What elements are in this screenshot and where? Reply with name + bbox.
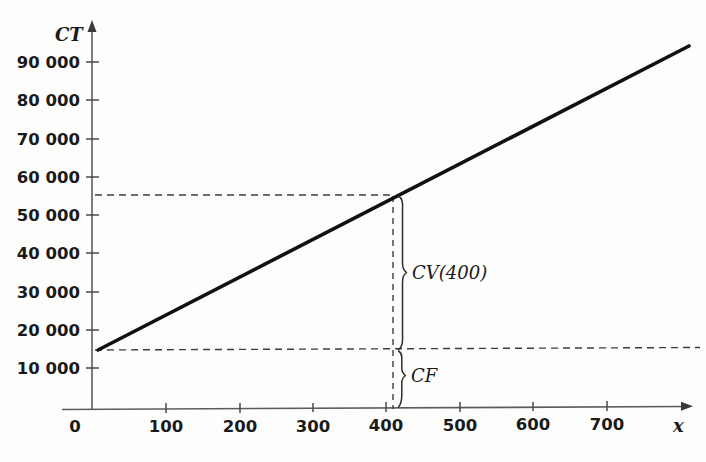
chart-figure: 10 000 20 000 30 000 40 000 50 000 60 00…	[0, 0, 706, 462]
x-tick-label: 300	[296, 417, 330, 436]
y-axis-arrow-icon	[88, 20, 97, 32]
y-tick-label: 80 000	[17, 91, 80, 110]
x-tick-label: 400	[369, 416, 403, 435]
y-tick-label: 50 000	[17, 206, 80, 225]
variable-cost-brace	[399, 196, 407, 350]
x-tick-label: 100	[149, 417, 183, 436]
y-tick-label: 60 000	[17, 168, 80, 187]
fixed-cost-brace	[399, 351, 406, 407]
y-axis-title: CT	[55, 24, 84, 45]
y-tick-label: 90 000	[17, 53, 80, 72]
x-tick-label: 500	[443, 416, 477, 435]
variable-cost-brace-label: CV(400)	[412, 262, 487, 283]
x-tick-label: 600	[516, 415, 550, 434]
y-tick-label: 20 000	[17, 321, 80, 340]
y-tick-label: 40 000	[17, 244, 80, 263]
x-tick-label-group: 0 100 200 300 400 500 600 700	[69, 415, 624, 436]
y-tick-label: 30 000	[17, 283, 80, 302]
y-tick-label: 10 000	[17, 359, 80, 378]
x-tick-label: 200	[223, 417, 257, 436]
total-cost-line	[98, 46, 689, 350]
fixed-cost-brace-label: CF	[411, 365, 439, 386]
x-axis-line	[62, 407, 684, 410]
x-tick-label: 700	[590, 415, 624, 434]
reference-line-fixed-cost	[95, 348, 700, 351]
y-tick-label-group: 10 000 20 000 30 000 40 000 50 000 60 00…	[17, 53, 80, 378]
x-tick-label: 0	[69, 417, 80, 436]
cost-function-chart: 10 000 20 000 30 000 40 000 50 000 60 00…	[0, 0, 706, 462]
x-axis-arrow-icon	[681, 402, 693, 411]
y-tick-label: 70 000	[17, 130, 80, 149]
x-axis-title: x	[672, 415, 684, 436]
axes-group	[62, 20, 693, 411]
